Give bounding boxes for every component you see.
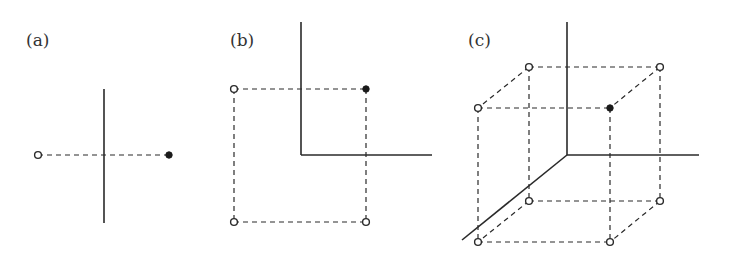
panel-label-b: (b) <box>230 30 254 50</box>
dashed-edge <box>610 201 660 242</box>
panel-label-c: (c) <box>468 30 491 50</box>
filled-vertex <box>363 86 369 92</box>
open-vertex <box>526 64 533 71</box>
filled-vertex <box>166 152 172 158</box>
open-vertex <box>526 198 533 205</box>
open-vertex <box>231 86 238 93</box>
hypercube-diagram: (a) (b) (c) <box>0 0 731 258</box>
panel-b: (b) <box>230 22 432 225</box>
dashed-edge <box>610 67 660 108</box>
open-vertex <box>657 198 664 205</box>
panel-a: (a) <box>26 30 172 223</box>
open-vertex <box>657 64 664 71</box>
dashed-edge <box>478 67 529 108</box>
panel-label-a: (a) <box>26 30 49 50</box>
filled-vertex <box>607 105 613 111</box>
open-vertex <box>363 219 370 226</box>
open-vertex <box>231 219 238 226</box>
open-vertex <box>607 239 614 246</box>
open-vertex <box>35 152 42 159</box>
open-vertex <box>475 239 482 246</box>
axes-3d <box>462 22 699 240</box>
panel-c: (c) <box>462 22 699 245</box>
open-vertex <box>475 105 482 112</box>
